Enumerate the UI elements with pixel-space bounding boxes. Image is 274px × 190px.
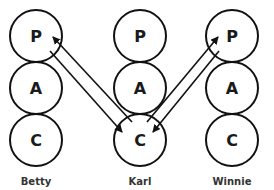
winnie-adult-label: A	[226, 79, 239, 98]
betty-adult-node: A	[10, 62, 62, 114]
ego-state-diagram: P A C Betty P A C Karl P	[0, 0, 274, 190]
karl-parent-node: P	[114, 10, 166, 62]
winnie-name-label: Winnie	[213, 176, 252, 187]
winnie-parent-label: P	[226, 27, 238, 46]
person-winnie: P A C Winnie	[206, 10, 258, 187]
betty-adult-label: A	[30, 79, 43, 98]
betty-child-label: C	[30, 131, 42, 150]
karl-parent-label: P	[134, 27, 146, 46]
karl-adult-node: A	[114, 62, 166, 114]
karl-adult-label: A	[134, 79, 147, 98]
winnie-parent-node: P	[206, 10, 258, 62]
betty-child-node: C	[10, 114, 62, 166]
winnie-child-node: C	[206, 114, 258, 166]
karl-child-label: C	[134, 131, 146, 150]
karl-name-label: Karl	[129, 176, 152, 187]
betty-name-label: Betty	[21, 176, 52, 187]
winnie-child-label: C	[226, 131, 238, 150]
karl-child-node: C	[114, 114, 166, 166]
person-betty: P A C Betty	[10, 10, 62, 187]
betty-parent-node: P	[10, 10, 62, 62]
winnie-adult-node: A	[206, 62, 258, 114]
person-karl: P A C Karl	[114, 10, 166, 187]
betty-parent-label: P	[30, 27, 42, 46]
